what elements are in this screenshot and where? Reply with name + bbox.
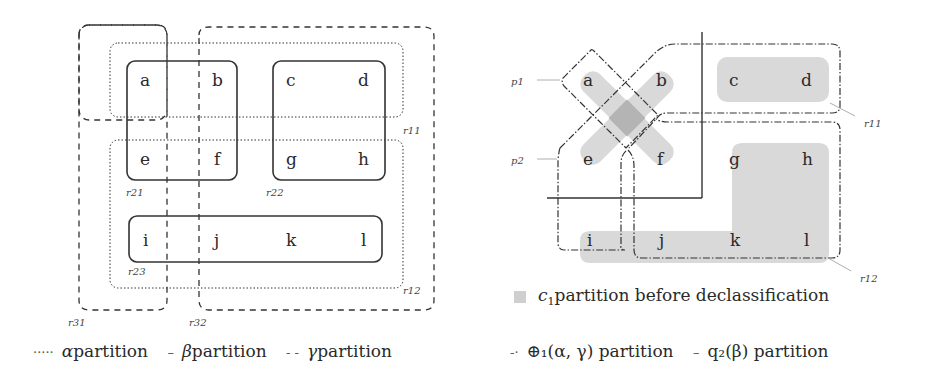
label-r23: r23	[128, 266, 146, 277]
cell-l: l	[361, 230, 366, 250]
rcell-g: g	[729, 149, 740, 169]
label-p1: p1	[511, 76, 524, 87]
q2-legend-text: q₂(β) partition	[707, 341, 828, 361]
label-r32: r32	[189, 317, 207, 328]
shade-legend-text: partition before declassification	[555, 285, 830, 305]
rcell-e: e	[583, 149, 593, 169]
rcell-b: b	[656, 70, 667, 90]
label-r11: r11	[403, 125, 421, 136]
oplus-line-sample: -·	[510, 345, 519, 360]
beta-line-sample: –	[167, 345, 174, 360]
region-r31-path	[79, 25, 167, 310]
cell-e: e	[140, 149, 150, 169]
c1-symbol: c	[538, 285, 548, 305]
label-r11-right: r11	[864, 118, 882, 129]
alpha-legend-text: partition	[73, 341, 148, 361]
region-r32-path	[199, 27, 434, 310]
gamma-line-sample: - -	[286, 345, 299, 360]
cell-g: g	[286, 149, 297, 169]
rcell-l: l	[804, 230, 809, 250]
cell-h: h	[358, 149, 369, 169]
r12-pointer	[828, 258, 851, 271]
label-r31: r31	[68, 317, 86, 328]
shade-legend: c1 partition before declassification	[514, 285, 829, 308]
q2-line-sample: –	[693, 345, 700, 360]
cell-f: f	[214, 149, 222, 169]
rcell-i: i	[587, 230, 593, 250]
shade-ghijkl	[580, 143, 829, 263]
beta-symbol: β	[182, 341, 192, 361]
cell-k: k	[286, 230, 297, 250]
alpha-line-sample: ·····	[33, 345, 54, 360]
c1-subscript: 1	[548, 295, 555, 308]
cell-a: a	[140, 70, 150, 90]
region-r31-outline	[79, 25, 167, 120]
left-cells: a b c d e f g h i j k l	[140, 70, 369, 250]
cell-i: i	[143, 230, 149, 250]
cell-d: d	[358, 70, 369, 90]
rcell-a: a	[583, 70, 593, 90]
cell-c: c	[286, 70, 296, 90]
label-r12-right: r12	[860, 273, 878, 284]
beta-legend-text: partition	[192, 341, 267, 361]
shade-swatch	[514, 291, 526, 303]
label-r12: r12	[403, 285, 421, 296]
label-r21: r21	[126, 187, 144, 198]
gamma-legend-text: partition	[317, 341, 392, 361]
rcell-c: c	[729, 70, 739, 90]
alpha-symbol: α	[62, 341, 73, 361]
left-legend: ·····α partition –β partition - -γ parti…	[33, 341, 392, 361]
label-r22: r22	[266, 187, 284, 198]
r11-pointer	[830, 103, 855, 116]
right-legend: -·⊕₁(α, γ) partition –q₂(β) partition	[510, 341, 829, 361]
region-r31	[79, 25, 167, 120]
rcell-h: h	[802, 149, 813, 169]
gamma-symbol: γ	[307, 341, 317, 361]
oplus-legend-text: ⊕₁(α, γ) partition	[527, 341, 674, 361]
label-p2: p2	[511, 155, 524, 166]
rcell-k: k	[730, 230, 741, 250]
cell-b: b	[212, 70, 223, 90]
diagram-canvas: a b c d e f g h i j k l r11 r12 r21 r22 …	[0, 0, 932, 383]
rcell-j: j	[657, 230, 664, 250]
rcell-d: d	[801, 70, 812, 90]
cell-j: j	[212, 230, 219, 250]
